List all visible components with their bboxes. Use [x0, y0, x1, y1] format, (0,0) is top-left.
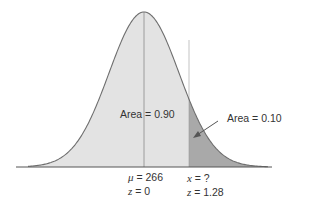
area-left-label: Area = 0.90 [120, 108, 175, 120]
mean-z-value: = 0 [135, 185, 150, 197]
x-value: = ? [195, 172, 210, 184]
x-z-value: = 1.28 [194, 186, 224, 198]
mean-value: = 266 [136, 171, 163, 183]
z-symbol: z [128, 185, 132, 197]
area-right-label: Area = 0.10 [227, 112, 282, 124]
mu-symbol: μ [128, 171, 134, 183]
mean-label: μ = 266 [128, 171, 163, 183]
x-symbol: x [187, 172, 192, 184]
z-symbol: z [187, 186, 191, 198]
x-label: x = ? [187, 172, 210, 184]
mean-z-label: z = 0 [128, 185, 150, 197]
x-z-label: z = 1.28 [187, 186, 224, 198]
area-left-region [28, 12, 268, 167]
